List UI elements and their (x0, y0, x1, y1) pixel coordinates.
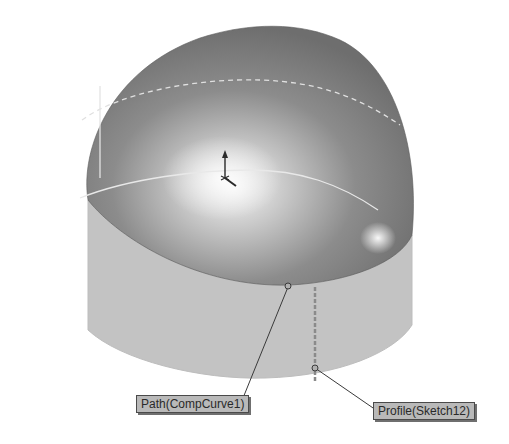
profile-callout[interactable]: Profile(Sketch12) (373, 402, 475, 420)
path-callout[interactable]: Path(CompCurve1) (136, 395, 249, 413)
highlight-center (162, 136, 282, 220)
highlight-right (360, 222, 396, 254)
model-canvas[interactable] (0, 0, 509, 444)
profile-leader-line (315, 368, 376, 410)
profile-handle[interactable] (312, 365, 318, 371)
path-handle[interactable] (285, 283, 291, 289)
graphics-viewport[interactable]: Path(CompCurve1) Profile(Sketch12) (0, 0, 509, 444)
